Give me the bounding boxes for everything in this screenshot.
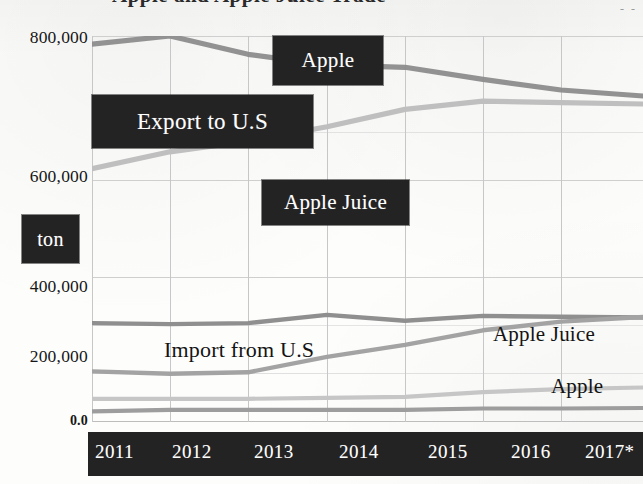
vertical-gridlines: [93, 36, 562, 422]
y-tick-label-800000: 800,000: [4, 29, 88, 47]
x-tick-label-2016: 2016: [511, 441, 551, 463]
x-tick-label-2017: 2017*: [585, 441, 635, 463]
label-apple-import: Apple: [551, 374, 603, 399]
chart-page: Apple and Apple Juice Trade - - 800,000 …: [0, 0, 643, 484]
label-apple-juice-import: Apple Juice: [493, 322, 595, 347]
cropped-title-sliver: Apple and Apple Juice Trade - -: [0, 0, 643, 14]
page-title-partial: Apple and Apple Juice Trade: [112, 0, 386, 8]
x-axis-band: 2011 2012 2013 2014 2015 2016 2017*: [88, 432, 643, 476]
callout-y-axis-unit-ton: ton: [22, 215, 79, 263]
x-tick-label-2012: 2012: [172, 441, 212, 463]
y-tick-label-600000: 600,000: [4, 168, 88, 186]
y-tick-label-200000: 200,000: [4, 348, 88, 366]
series-line-import-lowest: [92, 408, 643, 411]
y-tick-label-400000: 400,000: [4, 278, 88, 296]
x-tick-label-2015: 2015: [428, 441, 468, 463]
chart-svg: [92, 36, 643, 422]
x-tick-label-2013: 2013: [254, 441, 294, 463]
x-tick-label-2014: 2014: [339, 441, 379, 463]
y-tick-label-zero: 0.0: [4, 414, 88, 428]
label-import-from-us: Import from U.S: [164, 337, 314, 363]
callout-apple-juice: Apple Juice: [262, 180, 409, 225]
x-tick-label-2011: 2011: [95, 441, 134, 463]
callout-apple: Apple: [273, 36, 383, 85]
callout-export-to-us: Export to U.S: [92, 95, 313, 148]
top-right-marks: - -: [620, 2, 637, 14]
chart-plot-area: [92, 36, 643, 422]
